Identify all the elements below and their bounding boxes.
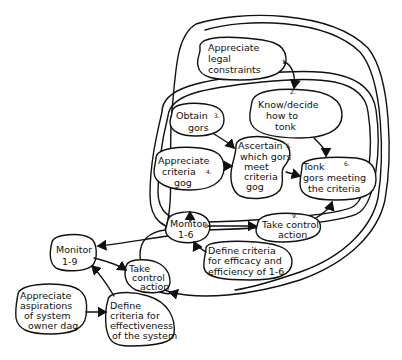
- svg-text:1-6: 1-6: [178, 229, 194, 240]
- node-define-criteria-effectiveness: Define criteria for effectiveness of the…: [106, 293, 178, 346]
- svg-text:action: action: [278, 229, 307, 240]
- node-know-decide-how-to-tonk: Know/decide how to tonk 2.: [250, 88, 342, 138]
- svg-text:tonk: tonk: [275, 121, 297, 132]
- node-tonk-gors-meeting-criteria: Tonk gors meeting the criteria 6.: [300, 157, 376, 200]
- node-take-control-action-9: Take control action 9.: [256, 212, 320, 242]
- svg-text:the criteria: the criteria: [308, 183, 360, 194]
- svg-text:2.: 2.: [290, 88, 296, 95]
- svg-text:gog: gog: [174, 177, 192, 188]
- svg-text:owner dag: owner dag: [28, 320, 78, 331]
- svg-text:3.: 3.: [214, 112, 220, 119]
- svg-text:6.: 6.: [344, 160, 350, 167]
- svg-text:Tonk: Tonk: [302, 161, 325, 172]
- svg-text:Monitor: Monitor: [56, 244, 92, 255]
- svg-text:1-9: 1-9: [62, 256, 78, 267]
- svg-text:action: action: [140, 281, 169, 292]
- svg-text:of the system: of the system: [112, 330, 177, 341]
- node-monitor-1-6: Monitor 1-6 8: [166, 212, 210, 243]
- svg-text:efficiency of 1-6: efficiency of 1-6: [208, 266, 284, 277]
- node-take-control-action-outer: Take control action: [125, 260, 170, 293]
- svg-text:9.: 9.: [292, 212, 298, 219]
- node-appreciate-criteria-gog: Appreciate criteria gog 4.: [154, 147, 224, 190]
- activity-diagram: Appreciate legal constraints 1. Know/dec…: [0, 0, 402, 360]
- node-appreciate-legal-constraints: Appreciate legal constraints 1.: [198, 37, 288, 80]
- node-ascertain-which-gors-meet-criteria: Ascertain which gors meet criteria gog 5…: [231, 137, 292, 199]
- svg-text:Ascertain: Ascertain: [238, 140, 283, 151]
- svg-text:5.: 5.: [286, 142, 292, 149]
- svg-text:Appreciate: Appreciate: [208, 42, 260, 53]
- svg-text:for efficacy and: for efficacy and: [208, 255, 282, 266]
- node-define-criteria-efficacy: Define criteria for efficacy and efficie…: [204, 241, 292, 280]
- svg-text:gog: gog: [246, 181, 264, 192]
- svg-text:criteria: criteria: [162, 166, 196, 177]
- svg-text:Monitor: Monitor: [170, 218, 206, 229]
- node-monitor-1-9: Monitor 1-9: [50, 235, 96, 271]
- svg-text:gors: gors: [188, 122, 209, 133]
- svg-text:gors meeting: gors meeting: [303, 172, 366, 183]
- node-obtain-gors: Obtain gors 3.: [170, 103, 224, 136]
- node-appreciate-aspirations: Appreciate aspirations of system owner d…: [16, 284, 87, 334]
- svg-text:constraints: constraints: [208, 64, 261, 75]
- svg-text:Know/decide: Know/decide: [258, 99, 319, 110]
- svg-text:how to: how to: [266, 110, 298, 121]
- svg-text:Appreciate: Appreciate: [158, 155, 210, 166]
- svg-text:Obtain: Obtain: [176, 110, 208, 121]
- svg-text:legal: legal: [208, 53, 231, 64]
- svg-text:4.: 4.: [206, 168, 212, 175]
- svg-text:8: 8: [204, 222, 208, 229]
